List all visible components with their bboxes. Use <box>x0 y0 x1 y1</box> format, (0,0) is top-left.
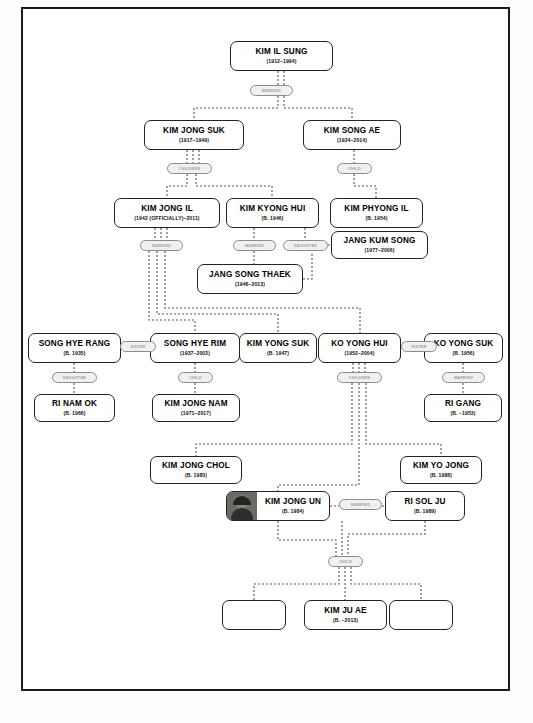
person-name: KIM JONG CHOL <box>162 461 230 471</box>
person-name: RI SOL JU <box>404 497 445 507</box>
page-canvas: KIM IL SUNG(1912–1994)KIM JONG SUK(1917–… <box>0 0 533 723</box>
person-node[interactable]: KIM PHYONG IL(B. 1954) <box>330 198 423 228</box>
person-name: KIM JONG IL <box>134 204 199 214</box>
person-text: KIM IL SUNG(1912–1994) <box>256 47 308 65</box>
person-node[interactable]: KIM JU AE(B. ~2013) <box>304 600 387 630</box>
person-text: KIM JONG IL(1942 (OFFICIALLY)–2011) <box>134 204 199 222</box>
person-name: SONG HYE RANG <box>39 339 111 349</box>
person-node[interactable]: KIM JONG UN(B. 1984) <box>226 491 330 521</box>
person-name: KIM IL SUNG <box>256 47 308 57</box>
relation-label: MARRIED <box>140 240 183 251</box>
person-dates: (B. 1988) <box>413 472 469 479</box>
person-name: KIM KYONG HUI <box>240 204 306 214</box>
person-dates: (B. 1966) <box>52 410 97 417</box>
relation-label: MARRIED <box>442 372 485 383</box>
person-text: KIM SONG AE(1924–2014) <box>324 126 380 144</box>
person-dates: (1924–2014) <box>324 137 380 144</box>
person-text: RI NAM OK(B. 1966) <box>52 399 97 417</box>
person-dates: (B. 1946) <box>240 215 306 222</box>
person-dates: (B. ~2013) <box>324 617 366 624</box>
person-name: KO YONG HUI <box>331 339 388 349</box>
tree-nodes-layer: KIM IL SUNG(1912–1994)KIM JONG SUK(1917–… <box>0 0 533 723</box>
kim-jong-un-portrait <box>227 492 257 520</box>
person-dates: (1971–2017) <box>164 410 227 417</box>
relation-label: MARRIED <box>250 85 293 96</box>
person-node[interactable]: KIM JONG SUK(1917–1949) <box>144 120 244 150</box>
person-text: KO YONG HUI(1952–2004) <box>331 339 388 357</box>
person-dates: (1942 (OFFICIALLY)–2011) <box>134 215 199 222</box>
person-text: KIM JONG NAM(1971–2017) <box>164 399 227 417</box>
person-name: JANG SONG THAEK <box>209 270 291 280</box>
relation-label: DAUGHTER <box>283 240 328 251</box>
person-dates: (1912–1994) <box>256 58 308 65</box>
person-node[interactable]: KIM IL SUNG(1912–1994) <box>230 41 333 71</box>
person-dates: (1917–1949) <box>163 137 225 144</box>
person-text: KIM YONG SUK(B. 1947) <box>247 339 310 357</box>
person-node[interactable]: KO YONG HUI(1952–2004) <box>318 333 401 363</box>
empty-person-box <box>389 600 453 630</box>
person-text: RI GANG(B. ~1953) <box>445 399 481 417</box>
person-node[interactable]: RI SOL JU(B. 1989) <box>385 491 465 521</box>
person-name: KIM JONG SUK <box>163 126 225 136</box>
person-node[interactable]: KIM SONG AE(1924–2014) <box>303 120 401 150</box>
person-name: KIM JONG UN <box>265 497 321 507</box>
empty-person-box <box>222 600 286 630</box>
person-node[interactable]: SONG HYE RIM(1937–2002) <box>150 333 240 363</box>
person-text: KO YONG SUK(B. 1956) <box>434 339 494 357</box>
person-text: KIM YO JONG(B. 1988) <box>413 461 469 479</box>
person-text: JANG KUM SONG(1977–2006) <box>343 236 415 254</box>
relation-label: CHILD <box>337 163 372 174</box>
person-name: KIM PHYONG IL <box>344 204 408 214</box>
relation-label: CHILD <box>178 372 213 383</box>
relation-label: MARRIED <box>233 240 276 251</box>
person-dates: (B. 1984) <box>282 508 304 515</box>
person-node[interactable]: JANG SONG THAEK(1946–2013) <box>197 264 303 294</box>
person-node[interactable]: RI NAM OK(B. 1966) <box>34 394 115 422</box>
person-dates: (1946–2013) <box>209 281 291 288</box>
person-node[interactable]: KIM KYONG HUI(B. 1946) <box>226 198 319 228</box>
person-name: RI GANG <box>445 399 481 409</box>
relation-label: CHILDREN <box>167 163 212 174</box>
person-name: KIM YO JONG <box>413 461 469 471</box>
person-node[interactable]: SONG HYE RANG(B. 1935) <box>28 333 121 363</box>
person-name: KIM JU AE <box>324 606 366 616</box>
person-name: SONG HYE RIM <box>164 339 226 349</box>
person-name: KO YONG SUK <box>434 339 494 349</box>
person-dates: (1952–2004) <box>331 350 388 357</box>
relation-label: DAUGHTER <box>52 372 97 383</box>
person-text: KIM KYONG HUI(B. 1946) <box>240 204 306 222</box>
person-dates: (1937–2002) <box>164 350 226 357</box>
person-text: RI SOL JU(B. 1989) <box>404 497 445 515</box>
person-name: JANG KUM SONG <box>343 236 415 246</box>
person-node[interactable]: JANG KUM SONG(1977–2006) <box>331 231 428 259</box>
person-text: SONG HYE RIM(1937–2002) <box>164 339 226 357</box>
person-node[interactable]: KIM JONG CHOL(B. 1980) <box>150 456 242 484</box>
person-node[interactable]: KIM JONG NAM(1971–2017) <box>152 394 240 422</box>
person-dates: (B. 1954) <box>344 215 408 222</box>
person-dates: (B. 1947) <box>247 350 310 357</box>
person-text: KIM JONG CHOL(B. 1980) <box>162 461 230 479</box>
person-text: KIM JU AE(B. ~2013) <box>324 606 366 624</box>
person-name: KIM SONG AE <box>324 126 380 136</box>
relation-label: CHILDREN <box>337 372 382 383</box>
person-text: KIM PHYONG IL(B. 1954) <box>344 204 408 222</box>
person-name: RI NAM OK <box>52 399 97 409</box>
person-dates: (B. 1989) <box>404 508 445 515</box>
person-name: KIM YONG SUK <box>247 339 310 349</box>
relation-label: MARRIED <box>339 499 382 510</box>
person-dates: (1977–2006) <box>343 247 415 254</box>
person-node[interactable]: KIM YO JONG(B. 1988) <box>400 456 482 484</box>
person-dates: (B. ~1953) <box>445 410 481 417</box>
person-dates: (B. 1935) <box>39 350 111 357</box>
relation-label: SISTER <box>120 341 156 352</box>
relation-label: SISTER <box>401 341 437 352</box>
person-name: KIM JONG NAM <box>164 399 227 409</box>
person-dates: (B. 1980) <box>162 472 230 479</box>
person-node[interactable]: RI GANG(B. ~1953) <box>424 394 502 422</box>
person-node[interactable]: KIM JONG IL(1942 (OFFICIALLY)–2011) <box>114 198 220 228</box>
person-node[interactable]: KIM YONG SUK(B. 1947) <box>239 333 317 363</box>
person-text: KIM JONG UN(B. 1984) <box>257 497 329 515</box>
person-text: SONG HYE RANG(B. 1935) <box>39 339 111 357</box>
person-text: JANG SONG THAEK(1946–2013) <box>209 270 291 288</box>
relation-label: CHILD <box>328 556 363 567</box>
